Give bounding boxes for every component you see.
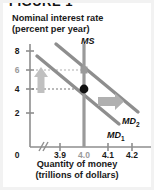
md1-curve <box>37 56 119 124</box>
x-axis-title-line1: Quantity of money <box>3 159 151 170</box>
y-tick-label-4: 4 <box>11 84 23 94</box>
x-axis-title: Quantity of money (trillions of dollars) <box>3 159 151 181</box>
x-axis-title-line2: (trillions of dollars) <box>3 170 151 181</box>
new-equilibrium-point <box>81 67 88 74</box>
figure-container: FIGURE 1 Nominal interest rate (percent … <box>0 0 154 190</box>
initial-equilibrium-point <box>80 85 89 94</box>
md2-label-text: MD <box>122 116 136 126</box>
md1-label-text: MD <box>107 130 121 140</box>
md1-curve-label: MD1 <box>107 130 125 142</box>
md2-curve-label: MD2 <box>122 116 140 128</box>
md2-curve <box>56 44 138 112</box>
y-tick-label-2: 2 <box>11 108 23 118</box>
ms-curve-label: MS <box>81 36 95 46</box>
y-tick-label-6: 6 <box>11 65 23 75</box>
md1-label-sub: 1 <box>121 135 125 142</box>
md2-label-sub: 2 <box>136 121 140 128</box>
y-tick-label-8: 8 <box>11 46 23 56</box>
